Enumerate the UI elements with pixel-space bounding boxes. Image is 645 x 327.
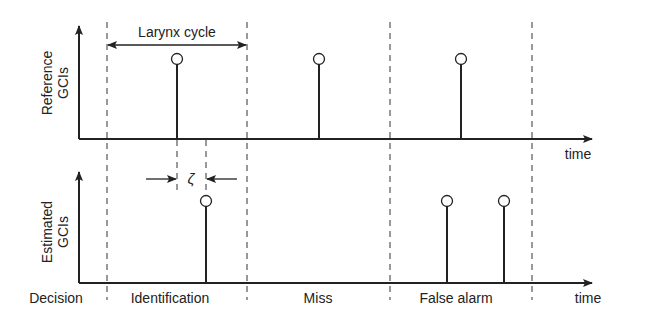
larynx-cycle-label: Larynx cycle (138, 24, 216, 40)
stem-marker-circle (201, 196, 212, 207)
reference-gci-stem (314, 54, 325, 140)
decision-title: Decision (29, 290, 83, 306)
zeta-indicator: ζ (146, 140, 237, 195)
reference-gci-stem (456, 54, 467, 140)
zeta-label: ζ (188, 170, 196, 187)
estimated-gci-stem (442, 196, 453, 284)
estimated-panel: Estimated GCIs time (39, 172, 601, 306)
estimated-ylabel-line2: GCIs (55, 216, 71, 248)
estimated-time-label: time (575, 290, 602, 306)
decision-miss: Miss (304, 290, 333, 306)
decision-identification: Identification (131, 290, 210, 306)
stem-marker-circle (314, 54, 325, 65)
estimated-gci-stem (201, 196, 212, 284)
stem-marker-circle (499, 196, 510, 207)
stem-marker-circle (172, 54, 183, 65)
reference-gci-stem (172, 54, 183, 140)
reference-ylabel-line2: GCIs (55, 67, 71, 99)
reference-panel: Reference GCIs time Larynx cycle (39, 24, 592, 162)
estimated-gci-stem (499, 196, 510, 284)
estimated-ylabel-line1: Estimated (39, 201, 55, 263)
reference-time-label: time (565, 146, 592, 162)
reference-ylabel-line1: Reference (39, 50, 55, 115)
decision-false-alarm: False alarm (419, 290, 492, 306)
stem-marker-circle (442, 196, 453, 207)
stem-marker-circle (456, 54, 467, 65)
decision-row: Decision Identification Miss False alarm (29, 290, 492, 306)
gci-evaluation-diagram: Reference GCIs time Larynx cycle ζ (0, 0, 645, 327)
